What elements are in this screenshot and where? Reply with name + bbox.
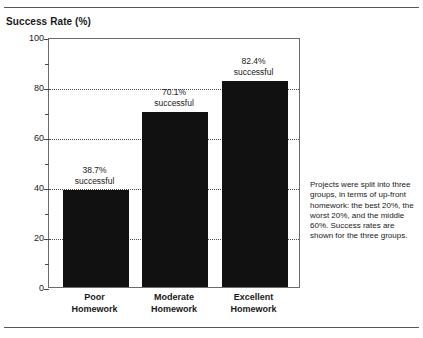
category-label: ExcellentHomework (204, 292, 304, 315)
bar (142, 112, 208, 287)
bar-value-line: 70.1% (127, 87, 221, 98)
bar-value-line: successful (127, 98, 221, 109)
bar-value-label: 82.4%successful (207, 56, 301, 78)
y-tick-minor (45, 214, 49, 215)
y-axis-label: 40 (4, 183, 44, 193)
y-axis-label: 60 (4, 133, 44, 143)
y-axis-label: 0 (4, 283, 44, 293)
chart-title: Success Rate (%) (6, 16, 91, 27)
y-axis-label: 80 (4, 83, 44, 93)
bar-value-line: 82.4% (207, 56, 301, 67)
bar-value-label: 70.1%successful (127, 87, 221, 109)
y-tick-major (44, 239, 49, 240)
category-label-line: Homework (204, 304, 304, 316)
y-axis: 020406080100 (0, 38, 44, 288)
bar (222, 81, 288, 287)
bar-value-label: 38.7%successful (48, 165, 142, 187)
y-axis-label: 20 (4, 233, 44, 243)
y-tick-minor (45, 114, 49, 115)
y-tick-minor (45, 264, 49, 265)
y-tick-major (44, 189, 49, 190)
y-tick-major (44, 289, 49, 290)
y-tick-minor (45, 64, 49, 65)
bar-value-line: successful (48, 176, 142, 187)
top-divider (4, 7, 419, 8)
y-axis-label: 100 (4, 33, 44, 43)
y-tick-major (44, 39, 49, 40)
bottom-divider (4, 327, 419, 328)
y-tick-major (44, 139, 49, 140)
bar-value-line: successful (207, 67, 301, 78)
y-tick-major (44, 89, 49, 90)
category-label-line: Excellent (204, 292, 304, 304)
chart-annotation: Projects were split into three groups, i… (310, 180, 418, 242)
bar-value-line: 38.7% (48, 165, 142, 176)
bar (63, 190, 129, 287)
